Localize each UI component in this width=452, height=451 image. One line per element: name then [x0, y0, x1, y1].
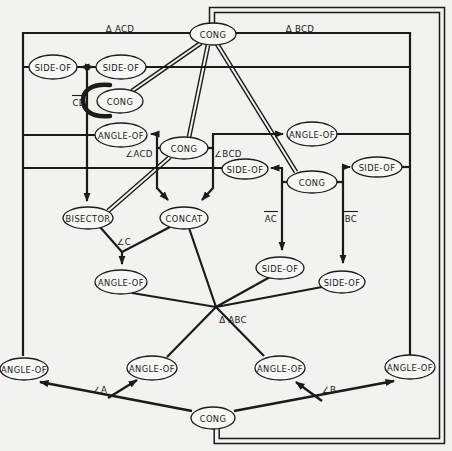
- ang-bcd-label: ∠BCD: [214, 149, 241, 159]
- side-of-right-label: SIDE-OF: [359, 163, 396, 173]
- side-of-2-label: SIDE-OF: [103, 63, 140, 73]
- cong-top-label: CONG: [200, 30, 227, 40]
- congbottom-branch-a-edge: [108, 380, 137, 398]
- concat-to-junction-edge: [189, 228, 216, 307]
- cong-cd-label: CONG: [107, 97, 134, 107]
- side-of-1-label: SIDE-OF: [35, 63, 72, 73]
- ang-a-label: ∠A: [93, 385, 107, 395]
- congmid-to-bisector-edge-a: [107, 156, 169, 210]
- congright-left-bracket-edge: [271, 168, 282, 250]
- angle-of-c-label: ANGLE-OF: [98, 278, 144, 288]
- angle-of-right-label: ANGLE-OF: [289, 130, 335, 140]
- tri-acd-label: Δ ACD: [106, 24, 135, 34]
- ang-c-label: ∠C: [117, 237, 131, 247]
- angle-of-b-label: ANGLE-OF: [257, 364, 303, 374]
- side-of-bcd-label: SIDE-OF: [227, 165, 264, 175]
- congmid-to-bisector-edge-b: [109, 158, 171, 212]
- congbottom-to-farleft-edge: [40, 382, 192, 411]
- angle-of-far-left-label: ANGLE-OF: [1, 365, 47, 375]
- geometry-proof-network-diagram: CONGSIDE-OFSIDE-OFCONGANGLE-OFCONGSIDE-O…: [0, 0, 452, 451]
- nodes-layer: CONGSIDE-OFSIDE-OFCONGANGLE-OFCONGSIDE-O…: [0, 23, 435, 429]
- seg-ac-label: AC: [265, 214, 277, 224]
- junction-to-anglea-edge: [167, 307, 216, 357]
- side-of-bc-label: SIDE-OF: [324, 278, 361, 288]
- ang-acd-label: ∠ACD: [125, 149, 152, 159]
- angle-of-a-label: ANGLE-OF: [129, 364, 175, 374]
- scanned-diagram-page: CONGSIDE-OFSIDE-OFCONGANGLE-OFCONGSIDE-O…: [0, 0, 452, 451]
- tri-bcd-label: Δ BCD: [286, 24, 315, 34]
- tri-abc-label: Δ ABC: [219, 315, 247, 325]
- seg-bc-label: BC: [345, 214, 357, 224]
- anglec-to-junction-edge: [132, 293, 216, 307]
- side-of-ac-label: SIDE-OF: [262, 264, 299, 274]
- seg-cd-label: CD: [72, 98, 85, 108]
- cong-mid-label: CONG: [171, 144, 198, 154]
- ang-b-label: ∠B: [322, 385, 336, 395]
- cong-bottom-label: CONG: [200, 414, 227, 424]
- angle-of-far-right-label: ANGLE-OF: [387, 363, 433, 373]
- angle-of-left-label: ANGLE-OF: [98, 131, 144, 141]
- concat-label: CONCAT: [166, 214, 203, 224]
- congtop-to-congmid-edge-a: [187, 45, 206, 137]
- bisector-label: BISECTOR: [65, 214, 110, 224]
- congtop-to-congmid-edge-b: [191, 45, 210, 137]
- cong-right-label: CONG: [299, 178, 326, 188]
